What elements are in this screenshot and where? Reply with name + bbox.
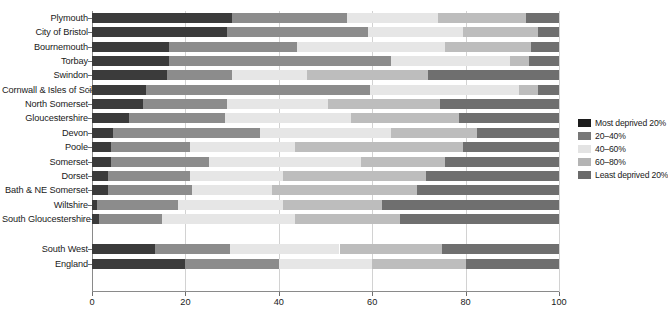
bar-row[interactable] <box>92 27 559 37</box>
bar-segment[interactable] <box>162 214 295 224</box>
bar-segment[interactable] <box>190 142 295 152</box>
bar-row[interactable] <box>92 70 559 80</box>
bar-segment[interactable] <box>92 85 146 95</box>
bar-row[interactable] <box>92 200 559 210</box>
bar-segment[interactable] <box>477 128 559 138</box>
bar-segment[interactable] <box>526 13 559 23</box>
bar-row[interactable] <box>92 13 559 23</box>
bar-row[interactable] <box>92 185 559 195</box>
bar-segment[interactable] <box>445 42 531 52</box>
bar-segment[interactable] <box>295 142 463 152</box>
bar-segment[interactable] <box>169 42 297 52</box>
bar-segment[interactable] <box>190 171 283 181</box>
bar-segment[interactable] <box>92 13 232 23</box>
bar-segment[interactable] <box>192 185 271 195</box>
bar-segment[interactable] <box>463 142 559 152</box>
bar-segment[interactable] <box>463 27 538 37</box>
bar-segment[interactable] <box>361 157 445 167</box>
bar-segment[interactable] <box>108 171 190 181</box>
bar-segment[interactable] <box>92 244 155 254</box>
bar-segment[interactable] <box>113 128 260 138</box>
bar-segment[interactable] <box>209 157 361 167</box>
bar-segment[interactable] <box>328 99 440 109</box>
bar-segment[interactable] <box>92 113 129 123</box>
bar-segment[interactable] <box>283 171 425 181</box>
bar-segment[interactable] <box>529 56 559 66</box>
legend-item[interactable]: 20–40% <box>578 130 668 142</box>
bar-segment[interactable] <box>108 185 192 195</box>
bar-segment[interactable] <box>92 42 169 52</box>
bar-segment[interactable] <box>169 56 391 66</box>
bar-segment[interactable] <box>440 99 559 109</box>
bar-segment[interactable] <box>283 200 381 210</box>
bar-segment[interactable] <box>445 157 559 167</box>
legend-item[interactable]: 40–60% <box>578 143 668 155</box>
bar-segment[interactable] <box>417 185 559 195</box>
bar-segment[interactable] <box>185 259 278 269</box>
bar-segment[interactable] <box>92 27 227 37</box>
bar-segment[interactable] <box>391 128 477 138</box>
bar-segment[interactable] <box>146 85 370 95</box>
bar-segment[interactable] <box>232 13 346 23</box>
bar-segment[interactable] <box>368 27 464 37</box>
bar-segment[interactable] <box>92 56 169 66</box>
bar-segment[interactable] <box>370 85 519 95</box>
bar-segment[interactable] <box>178 200 283 210</box>
bar-row[interactable] <box>92 99 559 109</box>
bar-row[interactable] <box>92 214 559 224</box>
bar-segment[interactable] <box>155 244 230 254</box>
bar-segment[interactable] <box>340 244 443 254</box>
bar-segment[interactable] <box>466 259 559 269</box>
bar-segment[interactable] <box>295 214 400 224</box>
bar-segment[interactable] <box>92 157 111 167</box>
bar-segment[interactable] <box>307 70 428 80</box>
bar-segment[interactable] <box>400 214 559 224</box>
bar-row[interactable] <box>92 85 559 95</box>
bar-row[interactable] <box>92 128 559 138</box>
bar-segment[interactable] <box>129 113 225 123</box>
bar-segment[interactable] <box>442 244 559 254</box>
bar-segment[interactable] <box>519 85 538 95</box>
bar-segment[interactable] <box>167 70 232 80</box>
bar-segment[interactable] <box>227 27 367 37</box>
bar-row[interactable] <box>92 142 559 152</box>
bar-segment[interactable] <box>232 70 307 80</box>
bar-row[interactable] <box>92 259 559 269</box>
bar-segment[interactable] <box>510 56 529 66</box>
bar-segment[interactable] <box>426 171 559 181</box>
bar-segment[interactable] <box>92 259 185 269</box>
bar-segment[interactable] <box>92 171 108 181</box>
bar-row[interactable] <box>92 171 559 181</box>
legend-item[interactable]: 60–80% <box>578 156 668 168</box>
bar-segment[interactable] <box>225 113 351 123</box>
bar-segment[interactable] <box>230 244 340 254</box>
bar-segment[interactable] <box>428 70 559 80</box>
bar-segment[interactable] <box>92 99 143 109</box>
bar-segment[interactable] <box>92 128 113 138</box>
bar-segment[interactable] <box>538 27 559 37</box>
bar-segment[interactable] <box>351 113 458 123</box>
bar-segment[interactable] <box>459 113 559 123</box>
bar-segment[interactable] <box>279 259 372 269</box>
bar-segment[interactable] <box>260 128 391 138</box>
bar-segment[interactable] <box>92 142 111 152</box>
legend-item[interactable]: Least deprived 20% <box>578 169 668 181</box>
bar-row[interactable] <box>92 157 559 167</box>
bar-segment[interactable] <box>97 200 179 210</box>
bar-row[interactable] <box>92 113 559 123</box>
bar-segment[interactable] <box>347 13 438 23</box>
bar-segment[interactable] <box>143 99 227 109</box>
bar-segment[interactable] <box>538 85 559 95</box>
bar-segment[interactable] <box>99 214 162 224</box>
bar-segment[interactable] <box>382 200 559 210</box>
bar-segment[interactable] <box>391 56 510 66</box>
bar-segment[interactable] <box>111 142 190 152</box>
bar-segment[interactable] <box>438 13 527 23</box>
bar-segment[interactable] <box>531 42 559 52</box>
bar-segment[interactable] <box>227 99 327 109</box>
legend-item[interactable]: Most deprived 20% <box>578 117 668 129</box>
bar-segment[interactable] <box>272 185 417 195</box>
bar-segment[interactable] <box>111 157 209 167</box>
bar-segment[interactable] <box>297 42 444 52</box>
bar-segment[interactable] <box>92 185 108 195</box>
